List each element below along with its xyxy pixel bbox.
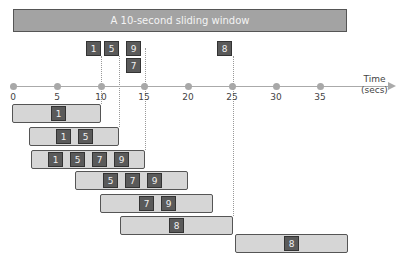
window-event: 1	[48, 152, 63, 167]
window-event: 7	[92, 152, 107, 167]
guide-line-12	[119, 56, 120, 127]
tick-dot	[229, 83, 236, 90]
window-event: 1	[56, 129, 71, 144]
window-3: 1 5 7 9	[31, 150, 145, 169]
event-8: 8	[217, 41, 232, 56]
tick-dot	[98, 83, 105, 90]
window-event: 5	[78, 129, 93, 144]
tick-dot	[54, 83, 61, 90]
window-event: 5	[103, 173, 118, 188]
event-5: 5	[104, 41, 119, 56]
window-event: 8	[169, 218, 184, 233]
tick-label: 15	[134, 92, 154, 102]
event-1: 1	[86, 41, 101, 56]
event-9: 9	[126, 41, 141, 56]
window-event: 7	[125, 173, 140, 188]
tick-label: 0	[3, 92, 23, 102]
window-event: 1	[51, 106, 66, 121]
tick-dot	[185, 83, 192, 90]
tick-label: 30	[266, 92, 286, 102]
tick-dot	[273, 83, 280, 90]
window-4: 5 7 9	[75, 171, 188, 190]
window-2: 1 5	[29, 127, 119, 146]
tick-label: 20	[178, 92, 198, 102]
tick-dot	[317, 83, 324, 90]
tick-label: 25	[222, 92, 242, 102]
window-event: 9	[114, 152, 129, 167]
tick-label: 35	[310, 92, 330, 102]
tick-dot	[141, 83, 148, 90]
window-event: 7	[139, 196, 154, 211]
tick-dot	[10, 83, 17, 90]
axis-label-units: (secs)	[361, 85, 388, 96]
window-1: 1	[12, 104, 101, 123]
tick-label: 10	[91, 92, 111, 102]
window-event: 5	[70, 152, 85, 167]
axis-label: Time (secs)	[361, 74, 388, 96]
window-7: 8	[235, 234, 348, 253]
window-5: 7 9	[100, 194, 213, 213]
tick-label: 5	[47, 92, 67, 102]
window-event: 9	[161, 196, 176, 211]
axis-label-time: Time	[361, 74, 388, 85]
window-event: 9	[147, 173, 162, 188]
axis-arrow-icon	[388, 82, 396, 90]
window-event: 8	[284, 236, 299, 251]
time-axis	[13, 86, 391, 87]
event-7: 7	[126, 58, 141, 73]
window-6: 8	[120, 216, 233, 235]
sliding-window-header: A 10-second sliding window	[13, 9, 347, 32]
guide-line-25	[233, 56, 234, 216]
